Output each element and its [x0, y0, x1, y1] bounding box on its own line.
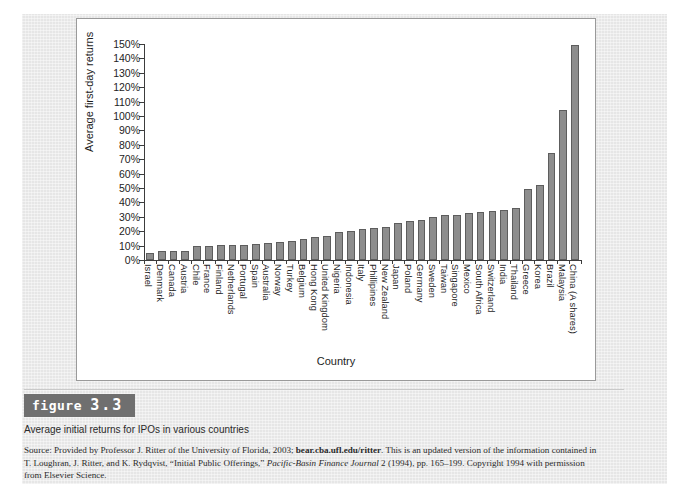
- bar: [323, 236, 331, 260]
- x-axis-tick-label: Indonesia: [345, 264, 354, 305]
- x-axis-tick-label: Spain: [250, 264, 259, 288]
- y-axis-tick-label: 30%: [119, 212, 140, 223]
- y-axis-tick-label: 80%: [119, 140, 140, 151]
- x-axis-tick-label: Nigeria: [333, 264, 342, 294]
- x-axis-tick-label: Norway: [274, 264, 283, 296]
- bar: [205, 246, 213, 260]
- source-journal-name: Pacific-Basin Finance Journal: [267, 458, 379, 468]
- bar: [288, 241, 296, 260]
- y-axis-title: Average first-day returns: [83, 32, 95, 152]
- bar: [229, 245, 237, 260]
- x-axis-tick-label: Belgium: [297, 264, 306, 298]
- x-axis-tick-label: Sweden: [427, 264, 436, 298]
- figure-number-badge: figure 3.3: [24, 394, 135, 417]
- x-axis-tick-label: Finland: [215, 264, 224, 295]
- bar: [394, 223, 402, 260]
- x-axis-tick-label: Turkey: [286, 264, 295, 292]
- x-axis-tick-label: Brazil: [545, 264, 554, 287]
- x-axis-tick-label: Austria: [179, 264, 188, 293]
- x-axis-title: Country: [77, 355, 595, 367]
- x-axis-tick-label: Canada: [168, 264, 177, 297]
- bar: [311, 237, 319, 260]
- figure-badge-number: 3.3: [90, 396, 123, 414]
- figure-title: Average initial returns for IPOs in vari…: [24, 424, 624, 435]
- chart-figure: Average first-day returns 0%10%20%30%40%…: [76, 18, 596, 381]
- x-axis-tick-label: Israel: [144, 264, 153, 287]
- x-axis-tick-label: Hong Kong: [309, 264, 318, 311]
- bar: [548, 153, 556, 260]
- y-axis-tick-label: 40%: [119, 197, 140, 208]
- bar: [146, 253, 154, 260]
- x-axis-tick-label: Portugal: [238, 264, 247, 299]
- y-axis-tick-label: 10%: [119, 240, 140, 251]
- y-axis-tick-label: 50%: [119, 183, 140, 194]
- bar: [406, 221, 414, 260]
- y-axis-tick-label: 0%: [125, 255, 140, 266]
- y-axis-tick-label: 150%: [113, 39, 140, 50]
- bar: [193, 246, 201, 260]
- x-axis-tick-label: Poland: [404, 264, 413, 293]
- x-axis-tick-label: India: [498, 264, 507, 284]
- y-axis-tick-label: 20%: [119, 226, 140, 237]
- bar: [359, 229, 367, 260]
- bar: [370, 228, 378, 260]
- textbook-page: Average first-day returns 0%10%20%30%40%…: [0, 0, 675, 487]
- x-axis-tick-label: China (A shares): [569, 264, 578, 334]
- x-axis-tick-label: Thailand: [510, 264, 519, 300]
- bar: [264, 243, 272, 260]
- x-axis-tick-label: Switzerland: [486, 264, 495, 312]
- bar: [429, 217, 437, 260]
- x-axis-tick: [581, 260, 582, 264]
- figure-source-note: Source: Provided by Professor J. Ritter …: [24, 444, 604, 482]
- x-axis-tick-label: Netherlands: [227, 264, 236, 315]
- y-axis-tick-label: 110%: [114, 96, 140, 107]
- x-axis-tick-label: France: [203, 264, 212, 293]
- bar: [300, 239, 308, 260]
- x-axis-tick-label: Taiwan: [439, 264, 448, 293]
- source-url-link[interactable]: bear.cba.ufl.edu/ritter: [296, 445, 381, 455]
- x-axis-tick-label: Australia: [262, 264, 271, 300]
- x-axis-tick-label: Malaysia: [557, 264, 566, 301]
- bar: [240, 245, 248, 260]
- y-axis-tick-label: 60%: [119, 168, 140, 179]
- caption-divider: [24, 389, 624, 390]
- x-axis-tick-label: Korea: [534, 264, 543, 289]
- bar: [477, 212, 485, 260]
- y-axis-tick-label: 140%: [113, 53, 140, 64]
- bar: [500, 210, 508, 260]
- y-axis-tick-label: 70%: [119, 154, 140, 165]
- bar: [536, 185, 544, 260]
- x-axis-tick-label: Singapore: [451, 264, 460, 307]
- source-prefix-text: Source: Provided by Professor J. Ritter …: [24, 445, 296, 455]
- figure-badge-word: figure: [32, 398, 82, 413]
- x-axis-tick-label: South Africa: [475, 264, 484, 315]
- y-axis-tick-label: 100%: [113, 111, 140, 122]
- bar: [512, 208, 520, 260]
- x-axis-tick-label: Mexico: [463, 264, 472, 294]
- x-axis-tick-label: Japan: [392, 264, 401, 290]
- bar: [252, 244, 260, 260]
- x-axis-tick-label: Italy: [356, 264, 365, 281]
- bar: [524, 189, 532, 260]
- bar: [453, 215, 461, 260]
- bar: [441, 215, 449, 260]
- bar: [217, 245, 225, 260]
- bar: [170, 251, 178, 260]
- bar: [335, 232, 343, 260]
- bar: [559, 110, 567, 260]
- bar: [465, 213, 473, 260]
- plot-area: 0%10%20%30%40%50%60%70%80%90%100%110%120…: [144, 44, 581, 260]
- y-axis-tick-label: 120%: [113, 82, 140, 93]
- bar: [181, 251, 189, 260]
- x-axis-tick-label: Germany: [416, 264, 425, 303]
- bar: [276, 242, 284, 260]
- bar: [489, 211, 497, 260]
- figure-caption: figure 3.3 Average initial returns for I…: [24, 394, 624, 482]
- x-axis-tick-label: United Kingdom: [321, 264, 330, 331]
- y-axis-tick-label: 130%: [113, 68, 140, 79]
- bar: [382, 227, 390, 260]
- x-axis-line: [144, 260, 582, 261]
- bar: [571, 45, 579, 260]
- bar: [347, 231, 355, 260]
- y-axis-tick-label: 90%: [119, 125, 140, 136]
